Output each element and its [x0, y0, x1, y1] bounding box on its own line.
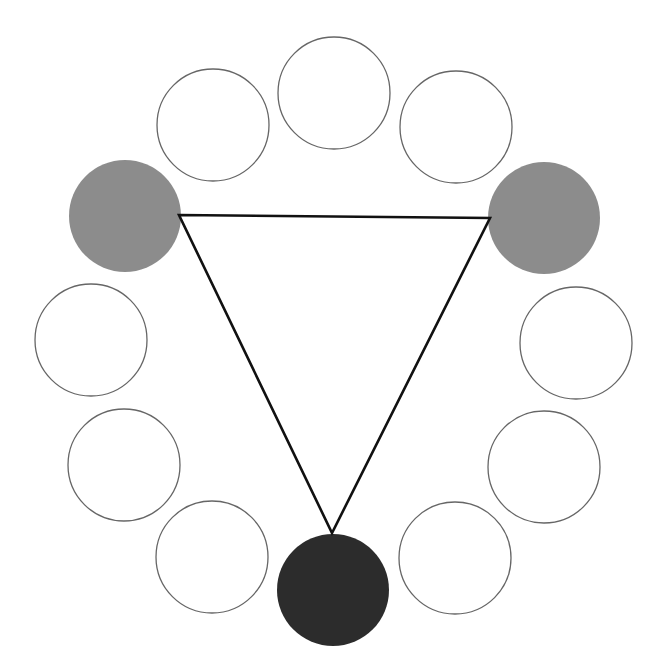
wheel-circles: [35, 37, 632, 646]
circle-lower-right: [488, 411, 600, 523]
circle-right: [520, 287, 632, 399]
circle-right-upper-filled: [488, 162, 600, 274]
circle-bottom-right: [399, 502, 511, 614]
triangle-outline: [179, 215, 490, 533]
circle-left: [35, 284, 147, 396]
circle-left-upper-filled: [69, 160, 181, 272]
circle-lower-left: [68, 409, 180, 521]
circle-top: [278, 37, 390, 149]
circle-upper-right: [400, 71, 512, 183]
circle-bottom-filled: [277, 534, 389, 646]
circle-bottom-left: [156, 501, 268, 613]
triad-triangle: [179, 215, 490, 533]
color-wheel-diagram: [0, 0, 652, 661]
circle-upper-left: [157, 69, 269, 181]
